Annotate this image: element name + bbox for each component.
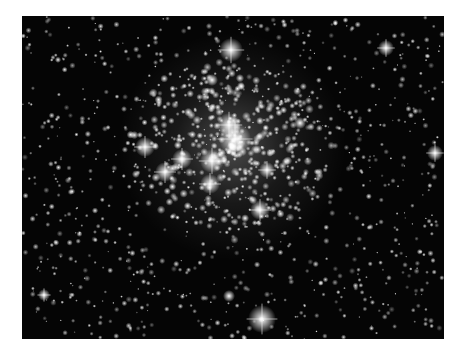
star-field-canvas (22, 16, 444, 339)
star-cluster-image (22, 16, 444, 339)
